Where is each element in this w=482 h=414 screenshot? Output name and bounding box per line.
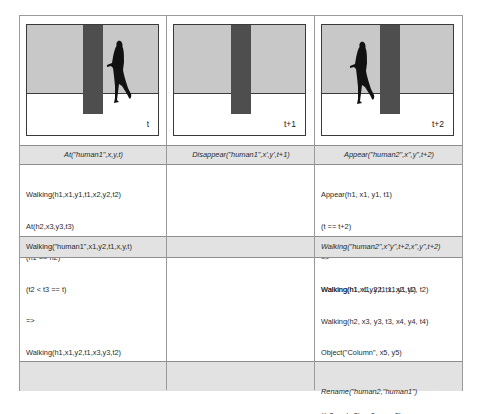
rules-row: Walking(h1,x1,y1,t1,x2,y2,t2) At(h2,x3,y… — [20, 165, 462, 236]
time-label: t — [147, 119, 149, 129]
rule-cell-empty — [20, 258, 167, 362]
column-pillar — [231, 25, 251, 114]
column-pillar — [83, 25, 103, 114]
result-cell-empty — [20, 362, 167, 391]
rename-rules-row: Walking(h1, x1, y2, t1, x2, y2, t2) Walk… — [20, 258, 462, 362]
scene-rules-table: t t+1 t+2 At("human1",x,y,t) Disappear("… — [19, 15, 463, 391]
rule-line: (t == t+2) — [321, 222, 457, 233]
result-cell-rename: Rename("human2,"human1") Walking("human1… — [315, 362, 463, 391]
rule-line: Walking(h1, x1, y2, t1, x2, y2, t2) — [321, 285, 457, 296]
inference-cell-walking-human2: Walking("human2",x"y",t+2,x",y",t+2) — [315, 237, 463, 257]
rule-line: At(h2,x3,y3,t3) — [26, 222, 161, 233]
time-label: t+1 — [284, 119, 296, 129]
rule-line: Object("Column", x5, y5) — [321, 348, 457, 359]
header-cell-at: At("human1",x,y,t) — [20, 146, 167, 164]
walking-person-icon — [350, 41, 378, 109]
result-row: Rename("human2,"human1") Walking("human1… — [20, 361, 462, 391]
frame-t-plus-2: t+2 — [321, 24, 454, 136]
column-divider — [314, 16, 315, 390]
inference-row: Walking("human1",x1,y2,t1,x,y,t) Walking… — [20, 236, 462, 258]
header-cell-disappear: Disappear("human1",x',y',t+1) — [167, 146, 315, 164]
time-label: t+2 — [432, 119, 444, 129]
rule-cell-empty — [167, 258, 315, 362]
inference-cell-walking-human1: Walking("human1",x1,y2,t1,x,y,t) — [20, 237, 167, 257]
rule-cell-empty — [167, 165, 315, 236]
inference-cell-empty — [167, 237, 315, 257]
rule-cell-appear: Appear(h1, x1, y1, t1) (t == t+2) => Wal… — [315, 165, 463, 236]
frame-t-plus-1: t+1 — [173, 24, 306, 136]
result-cell-empty — [167, 362, 315, 391]
rule-line: Appear(h1, x1, y1, t1) — [321, 190, 457, 201]
column-pillar — [380, 25, 400, 114]
rule-line: Walking(h1,x1,y1,t1,x2,y2,t2) — [26, 190, 161, 201]
rule-line: Walking(h2, x3, y3, t3, x4, y4, t4) — [321, 317, 457, 328]
frame-t: t — [26, 24, 159, 136]
rule-cell-rename: Walking(h1, x1, y2, t1, x2, y2, t2) Walk… — [315, 258, 463, 362]
column-divider — [166, 16, 167, 390]
header-cell-appear: Appear("human2",x",y",t+2) — [315, 146, 463, 164]
rule-cell-walking-at: Walking(h1,x1,y1,t1,x2,y2,t2) At(h2,x3,y… — [20, 165, 167, 236]
frames-row: t t+1 t+2 — [20, 16, 462, 145]
predicate-header-row: At("human1",x,y,t) Disappear("human1",x'… — [20, 145, 462, 165]
walking-person-icon — [107, 40, 135, 108]
result-line: Rename("human2,"human1") — [321, 387, 457, 398]
